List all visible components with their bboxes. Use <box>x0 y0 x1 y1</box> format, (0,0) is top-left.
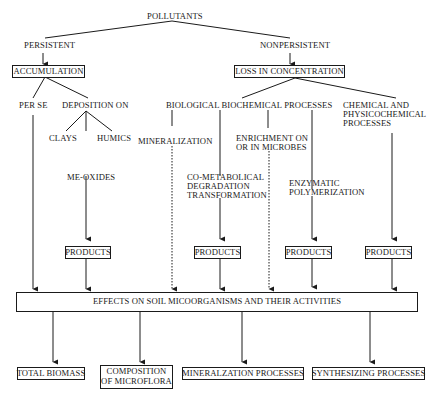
deposition-on-label: DEPOSITION ON <box>62 101 128 111</box>
effects-on-soil-microorganisms-box: EFFECTS ON SOIL MICOORGANISMS AND THEIR … <box>16 292 418 312</box>
biological-biochemical-processes-label: BIOLOGICAL BIOCHEMICAL PROCESSES <box>166 101 332 111</box>
composition-line2: OF MICROFLORA <box>101 377 172 387</box>
humics-label: HUMICS <box>97 134 131 144</box>
outcome-mineralization-processes-box: MINERALZATION PROCESSES <box>182 367 304 380</box>
connector-lines <box>0 0 440 402</box>
per-se-label: PER SE <box>19 101 48 111</box>
persistent-label: PERSISTENT <box>24 41 75 51</box>
nonpersistent-label: NONPERSISTENT <box>260 41 330 51</box>
me-oxides-label: ME-OXIDES <box>67 173 115 183</box>
enrichment-label-line2: OR IN MICROBES <box>236 143 307 153</box>
accumulation-box: ACCUMULATION <box>12 65 85 78</box>
chemical-label-line3: PROCESSES <box>343 119 391 129</box>
enzymatic-label-line2: POLYMERIZATION <box>289 188 365 198</box>
products-box-chemical: PRODUCTS <box>365 246 412 259</box>
loss-in-concentration-box: LOSS IN CONCENTRATION <box>234 65 345 78</box>
products-box-enzymatic: PRODUCTS <box>285 246 332 259</box>
outcome-synthesizing-processes-box: SYNTHESIZING PROCESSES <box>312 367 425 380</box>
pollutant-effects-diagram: POLLUTANTS PERSISTENT ACCUMULATION PER S… <box>0 0 440 402</box>
outcome-composition-of-microflora-box: COMPOSITION OF MICROFLORA <box>100 365 173 389</box>
mineralization-label: MINERALIZATION <box>138 137 212 147</box>
products-box-cometabolical: PRODUCTS <box>194 246 241 259</box>
cometabolical-label-line3: TRANSFORMATION <box>187 191 267 201</box>
outcome-total-biomass-box: TOTAL BIOMASS <box>17 367 85 380</box>
products-box-persistent: PRODUCTS <box>65 246 111 259</box>
root-pollutants-label: POLLUTANTS <box>147 12 203 22</box>
clays-label: CLAYS <box>49 134 77 144</box>
